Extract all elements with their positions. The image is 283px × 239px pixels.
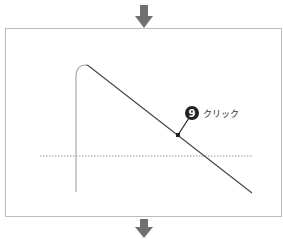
click-point-marker[interactable] <box>176 133 180 137</box>
arrow-down-icon <box>135 219 153 238</box>
diagram-canvas: 9 <box>0 0 283 239</box>
step-badge: 9 <box>185 106 199 120</box>
callout-label: クリック <box>203 107 239 120</box>
diagram-frame <box>6 29 282 217</box>
arrow-down-icon <box>135 5 153 28</box>
step-number: 9 <box>189 108 196 119</box>
